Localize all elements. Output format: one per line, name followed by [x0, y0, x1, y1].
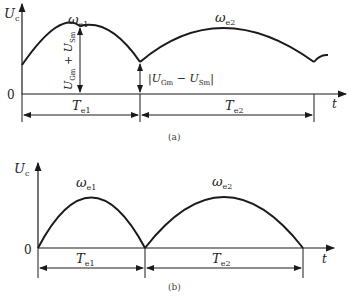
omega-e1-label-b: ωe1	[76, 175, 96, 192]
period-e1-label-a: Te1	[72, 98, 91, 115]
omega-e1-label-a: ωe1	[68, 12, 88, 29]
omega-e2-label-b: ωe2	[212, 174, 232, 191]
origin-label-b: 0	[24, 243, 32, 257]
figure-b: Uc 0 t ωe1 ωe2 Te1 Te2 (b)	[14, 161, 334, 292]
y-axis-label-a: Uc	[4, 6, 20, 23]
x-axis-label-a: t	[332, 97, 337, 111]
x-axis-label-b: t	[322, 252, 327, 266]
waveform-arc-2-b	[145, 197, 303, 248]
period-e2-label-a: Te2	[225, 98, 244, 115]
origin-label-a: 0	[7, 88, 15, 102]
waveform-arc-2-a	[140, 28, 314, 62]
period-e1-label-b: Te1	[76, 251, 95, 268]
peak-amplitude-label: UGm + USm	[62, 31, 77, 90]
waveform-arc-1-b	[38, 198, 145, 249]
figure-a: Uc 0 t ωe1 ωe2 UGm + USm |UGm − USm| Te1…	[4, 4, 346, 142]
period-e2-label-b: Te2	[212, 251, 231, 268]
diagram-canvas: Uc 0 t ωe1 ωe2 UGm + USm |UGm − USm| Te1…	[0, 0, 353, 305]
omega-e2-label-a: ωe2	[215, 10, 235, 27]
waveform-tail-a	[314, 55, 328, 62]
caption-b: (b)	[168, 282, 181, 292]
y-axis-label-b: Uc	[14, 161, 30, 178]
caption-a: (a)	[168, 132, 180, 142]
valley-amplitude-label: |UGm − USm|	[148, 72, 214, 87]
